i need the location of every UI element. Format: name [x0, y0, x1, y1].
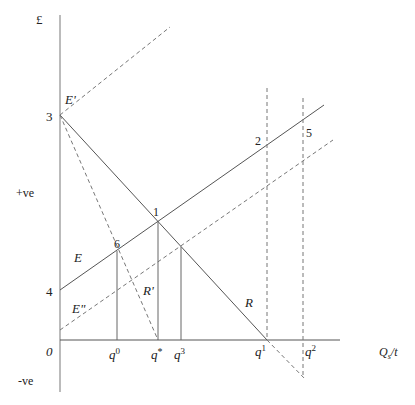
curve-R-prime-label: R' — [142, 283, 154, 298]
curve-E-double-prime — [60, 140, 333, 330]
q0-label: q0 — [109, 346, 121, 362]
curve-E-double-prime-label: E" — [71, 301, 86, 316]
qstar-label: q* — [151, 346, 163, 362]
origin-label: 0 — [46, 344, 53, 359]
q3-label: q3 — [174, 346, 186, 362]
q2-label: q2 — [305, 343, 316, 359]
curve-E-prime-label: E' — [64, 92, 76, 107]
point-2-label: 2 — [255, 134, 261, 148]
point-1-label: 1 — [153, 205, 159, 219]
curve-E — [60, 105, 324, 290]
point-6-label: 6 — [114, 237, 120, 251]
positive-label: +ve — [16, 186, 34, 200]
point-5-label: 5 — [306, 126, 312, 140]
curve-E-label: E — [73, 250, 82, 265]
curve-R — [60, 115, 267, 340]
y-axis-unit-label: £ — [36, 12, 43, 27]
point-3-label: 3 — [46, 109, 53, 124]
curve-R-label: R — [244, 295, 253, 310]
externality-diagram: £ +ve -ve 0 3 4 1 6 2 5 E' E E" R' R q0 … — [0, 0, 415, 405]
curve-E-prime — [60, 27, 170, 115]
curve-R-extension — [267, 340, 306, 380]
point-4-label: 4 — [46, 284, 53, 299]
x-axis-label: Qs/t — [379, 345, 398, 361]
negative-label: -ve — [18, 374, 33, 388]
q1-label: q1 — [255, 343, 266, 359]
